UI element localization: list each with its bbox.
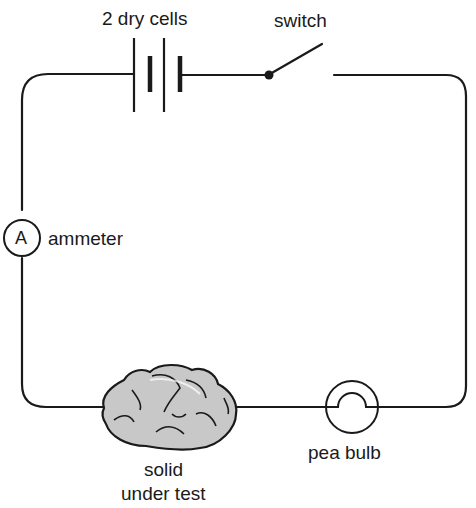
wire-bottom-left <box>22 258 104 407</box>
solid-label-line1: solid <box>144 460 183 479</box>
cells-label: 2 dry cells <box>102 9 188 28</box>
ammeter-letter: A <box>15 229 27 247</box>
circuit-wires <box>0 0 476 508</box>
pea-bulb-symbol <box>326 381 378 433</box>
bulb-label: pea bulb <box>308 443 381 462</box>
solid-label-line2: under test <box>121 484 206 503</box>
switch-lever <box>270 44 322 74</box>
solid-rock <box>103 365 237 450</box>
ammeter-label: ammeter <box>48 229 123 248</box>
circuit-diagram: 2 dry cells switch A ammeter solid under… <box>0 0 476 508</box>
wire-top-left <box>22 74 133 210</box>
switch-pivot <box>265 71 274 80</box>
dry-cells-symbol <box>134 38 180 112</box>
switch-label: switch <box>274 11 327 30</box>
wire-right <box>334 75 466 407</box>
